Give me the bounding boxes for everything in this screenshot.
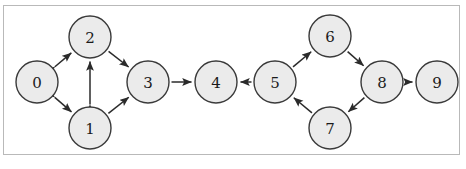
- node-label-3: 3: [143, 74, 153, 92]
- diagram-canvas: 0123456789: [0, 0, 466, 169]
- node-label-7: 7: [325, 120, 335, 138]
- node-label-2: 2: [85, 29, 95, 47]
- graph-node-8[interactable]: 8: [361, 61, 403, 103]
- graph-svg: 0123456789: [0, 0, 466, 169]
- node-label-0: 0: [32, 74, 42, 92]
- node-label-9: 9: [432, 74, 442, 92]
- edge-8-7: [348, 98, 364, 112]
- edge-7-5: [294, 98, 312, 113]
- graph-node-2[interactable]: 2: [69, 16, 111, 58]
- edge-2-3: [109, 51, 129, 67]
- edge-5-6: [293, 52, 311, 67]
- edge-0-2: [55, 53, 71, 67]
- graph-node-1[interactable]: 1: [69, 107, 111, 149]
- edge-6-8: [348, 52, 364, 66]
- node-label-5: 5: [270, 74, 280, 92]
- node-label-4: 4: [211, 74, 221, 92]
- graph-node-6[interactable]: 6: [309, 15, 351, 57]
- graph-node-7[interactable]: 7: [309, 107, 351, 149]
- graph-node-9[interactable]: 9: [416, 61, 458, 103]
- graph-node-4[interactable]: 4: [195, 61, 237, 103]
- nodes-layer: 0123456789: [16, 15, 458, 149]
- graph-node-5[interactable]: 5: [254, 61, 296, 103]
- graph-node-0[interactable]: 0: [16, 61, 58, 103]
- graph-node-3[interactable]: 3: [127, 61, 169, 103]
- node-label-8: 8: [377, 74, 387, 92]
- node-label-6: 6: [325, 28, 335, 46]
- edge-1-3: [108, 97, 128, 113]
- node-label-1: 1: [85, 120, 95, 138]
- edge-0-1: [55, 97, 72, 112]
